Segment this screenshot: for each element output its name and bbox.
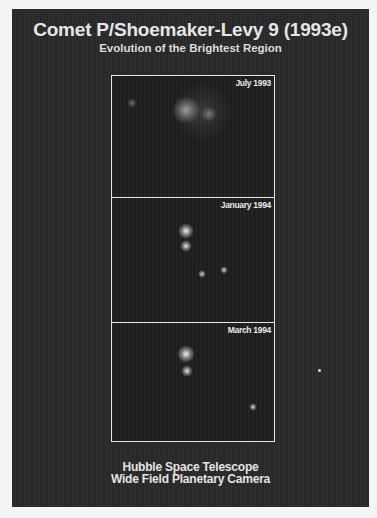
star-speck — [318, 369, 321, 372]
panel-date-label: January 1994 — [221, 200, 271, 210]
comet-fragment — [198, 270, 206, 278]
comet-poster: Comet P/Shoemaker-Levy 9 (1993e) Evoluti… — [12, 9, 369, 507]
panel-date-label: March 1994 — [228, 325, 271, 335]
comet-fragment — [181, 365, 193, 377]
comet-fragment — [177, 345, 195, 363]
panel-july-1993: July 1993 — [112, 76, 274, 197]
comet-fragment — [249, 403, 257, 411]
panel-january-1994: January 1994 — [112, 197, 274, 322]
poster-subtitle: Evolution of the Brightest Region — [12, 42, 369, 54]
panel-date-label: July 1993 — [235, 78, 271, 88]
panel-march-1994: March 1994 — [112, 322, 274, 441]
image-sequence-frame: July 1993 January 1994 March 1994 — [111, 75, 275, 442]
comet-fragment — [127, 98, 137, 108]
footer-camera: Wide Field Planetary Camera — [12, 472, 369, 486]
comet-fragment — [172, 82, 232, 142]
comet-fragment — [178, 223, 194, 239]
poster-title: Comet P/Shoemaker-Levy 9 (1993e) — [12, 19, 369, 41]
comet-fragment — [180, 240, 192, 252]
comet-fragment — [220, 266, 228, 274]
